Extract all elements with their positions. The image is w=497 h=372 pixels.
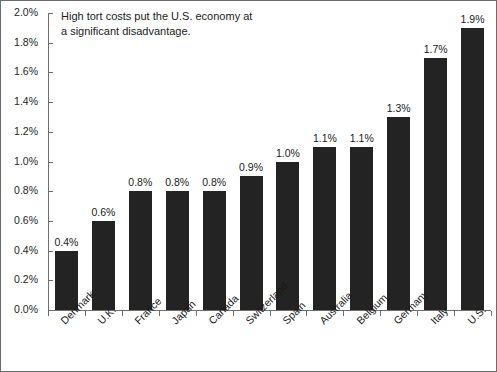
x-tick-mark bbox=[454, 311, 455, 316]
bar[interactable] bbox=[203, 191, 226, 310]
bar[interactable] bbox=[350, 147, 373, 310]
bar-value-label: 0.9% bbox=[239, 161, 263, 173]
y-tick-label: 0.8% bbox=[14, 184, 38, 196]
x-tick-mark bbox=[343, 311, 344, 316]
bar[interactable] bbox=[166, 191, 189, 310]
y-tick-label: 1.4% bbox=[14, 95, 38, 107]
bar[interactable] bbox=[129, 191, 152, 310]
x-tick-mark bbox=[48, 311, 49, 316]
x-tick-mark bbox=[380, 311, 381, 316]
x-tick-mark bbox=[196, 311, 197, 316]
bar-column[interactable]: 0.8% bbox=[203, 13, 226, 310]
bar[interactable] bbox=[313, 147, 336, 310]
bar-value-label: 0.4% bbox=[54, 236, 78, 248]
plot-area: 0.4%0.6%0.8%0.8%0.8%0.9%1.0%1.1%1.1%1.3%… bbox=[48, 13, 491, 310]
x-tick-mark bbox=[233, 311, 234, 316]
bar-column[interactable]: 1.1% bbox=[350, 13, 373, 310]
bar-column[interactable]: 1.0% bbox=[276, 13, 299, 310]
bar[interactable] bbox=[461, 28, 484, 310]
bar-column[interactable]: 0.6% bbox=[92, 13, 115, 310]
x-tick-mark bbox=[417, 311, 418, 316]
bar-column[interactable]: 0.9% bbox=[240, 13, 263, 310]
bar[interactable] bbox=[240, 176, 263, 310]
x-tick-mark bbox=[159, 311, 160, 316]
bar-column[interactable]: 0.8% bbox=[166, 13, 189, 310]
bar-value-label: 0.6% bbox=[91, 206, 115, 218]
bar-column[interactable]: 0.8% bbox=[129, 13, 152, 310]
y-tick-label: 2.0% bbox=[14, 6, 38, 18]
y-tick-label: 1.6% bbox=[14, 65, 38, 77]
bar[interactable] bbox=[387, 117, 410, 310]
bar-value-label: 0.8% bbox=[202, 176, 226, 188]
bar-value-label: 1.3% bbox=[387, 102, 411, 114]
y-tick-label: 0.2% bbox=[14, 273, 38, 285]
bar-value-label: 0.8% bbox=[165, 176, 189, 188]
bar-value-label: 1.1% bbox=[313, 132, 337, 144]
bar-column[interactable]: 1.1% bbox=[313, 13, 336, 310]
y-tick-label: 1.2% bbox=[14, 125, 38, 137]
y-tick-label: 0.0% bbox=[14, 303, 38, 315]
x-tick-mark bbox=[122, 311, 123, 316]
x-tick-mark bbox=[306, 311, 307, 316]
x-tick-mark bbox=[491, 311, 492, 316]
bar-column[interactable]: 0.4% bbox=[55, 13, 78, 310]
bar-column[interactable]: 1.9% bbox=[461, 13, 484, 310]
bar-column[interactable]: 1.3% bbox=[387, 13, 410, 310]
y-tick-label: 1.8% bbox=[14, 36, 38, 48]
bar-value-label: 1.9% bbox=[461, 13, 485, 25]
bar-value-label: 1.1% bbox=[350, 132, 374, 144]
bar-value-label: 0.8% bbox=[128, 176, 152, 188]
y-tick-label: 0.6% bbox=[14, 214, 38, 226]
y-tick-label: 0.4% bbox=[14, 244, 38, 256]
x-tick-mark bbox=[270, 311, 271, 316]
y-tick-label: 1.0% bbox=[14, 155, 38, 167]
bar-value-label: 1.0% bbox=[276, 147, 300, 159]
bar-value-label: 1.7% bbox=[424, 43, 448, 55]
bar-column[interactable]: 1.7% bbox=[424, 13, 447, 310]
chart-frame: High tort costs put the U.S. economy at … bbox=[0, 0, 497, 372]
bar[interactable] bbox=[424, 58, 447, 310]
x-tick-mark bbox=[85, 311, 86, 316]
